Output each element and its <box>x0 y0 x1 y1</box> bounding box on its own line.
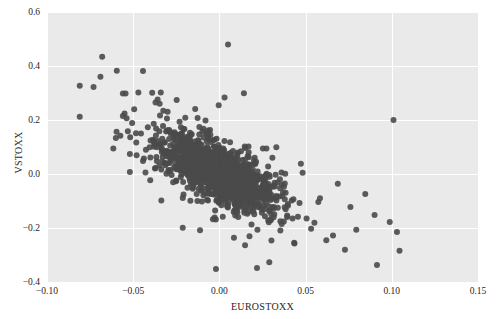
y-tick-label: −0.4 <box>8 277 40 287</box>
y-axis-label: VSTOXX <box>13 113 24 193</box>
x-tick-label: 0.00 <box>211 286 228 296</box>
y-tick-label: 0.4 <box>8 61 40 71</box>
x-tick-label: 0.15 <box>470 286 487 296</box>
x-axis-label: EUROSTOXX <box>47 301 478 312</box>
y-tick-label: 0.6 <box>8 7 40 17</box>
x-tick-label: 0.05 <box>297 286 314 296</box>
x-tick-label: −0.10 <box>36 286 58 296</box>
plot-area <box>47 12 478 282</box>
x-tick-label: −0.05 <box>122 286 144 296</box>
scatter-chart-figure: −0.10−0.050.000.050.100.15 −0.4−0.20.00.… <box>0 0 496 319</box>
x-tick-label: 0.10 <box>383 286 400 296</box>
scatter-points-layer <box>47 12 478 282</box>
y-tick-label: −0.2 <box>8 223 40 233</box>
